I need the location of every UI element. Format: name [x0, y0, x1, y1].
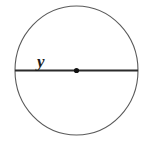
center-dot — [74, 68, 79, 73]
geometry-figure: y — [0, 0, 146, 143]
diameter-label: y — [37, 53, 45, 70]
geometry-canvas — [0, 0, 146, 143]
